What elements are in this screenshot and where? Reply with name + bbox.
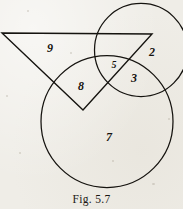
region-label-3: 3 — [131, 72, 137, 84]
geometry-diagram — [0, 0, 183, 209]
region-label-7: 7 — [106, 131, 112, 143]
region-label-8: 8 — [78, 80, 84, 92]
region-label-2: 2 — [149, 46, 155, 58]
region-label-9: 9 — [47, 42, 53, 54]
figure-container: 9 2 5 3 8 7 Fig. 5.7 — [0, 0, 183, 209]
figure-caption: Fig. 5.7 — [0, 193, 183, 205]
region-label-5: 5 — [112, 60, 117, 70]
large-circle — [41, 56, 173, 188]
triangle — [2, 33, 152, 110]
